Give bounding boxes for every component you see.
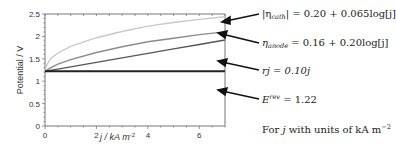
arrow-head-icon	[218, 88, 227, 95]
arrow-head-icon	[218, 31, 227, 38]
annotation-anode-overpotential: ηanode = 0.16 + 0.20log[j]	[262, 37, 389, 50]
x-tick-label: 6	[197, 131, 202, 140]
arrow-anode	[222, 34, 259, 43]
y-tick-label: 2	[36, 32, 41, 41]
arrow-cath	[226, 14, 259, 21]
series-line	[45, 32, 225, 71]
y-tick-label: 0	[36, 122, 41, 131]
arrow-head-icon	[218, 59, 227, 66]
x-tick-label: 4	[146, 131, 151, 140]
arrow-ohmic	[222, 62, 259, 70]
y-axis-title: Potential / V	[15, 46, 25, 95]
y-tick-label: 0.5	[29, 100, 41, 109]
arrow-head-icon	[222, 17, 230, 24]
annotation-arrows	[218, 14, 259, 99]
annotation-ohmic-drop: rj = 0.10j	[262, 65, 310, 76]
y-tick-labels: 0 0.5 1 1.5 2 2.5	[29, 10, 41, 131]
y-tick-label: 1	[36, 77, 41, 86]
plot-frame	[45, 14, 225, 126]
x-tick-label: 2	[94, 131, 99, 140]
annotation-cathode-overpotential: |ηcath| = 0.20 + 0.065log[j]	[262, 8, 396, 21]
x-tick-label: 0	[43, 131, 48, 140]
y-tick-label: 1.5	[29, 55, 41, 64]
annotation-reversible-potential: Erev = 1.22	[262, 93, 317, 105]
arrow-erev	[222, 91, 259, 99]
x-axis-title: j / kA m-2	[99, 132, 136, 142]
annotation-units-note: For j with units of kA m−2	[262, 123, 391, 135]
y-tick-label: 2.5	[29, 10, 41, 19]
data-series	[45, 17, 225, 72]
